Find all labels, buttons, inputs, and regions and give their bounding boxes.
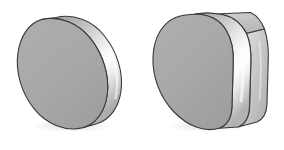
solids-figure: [0, 0, 284, 150]
illustration-canvas: Two shaded 3D solids A cylinder and a cy…: [0, 0, 284, 150]
